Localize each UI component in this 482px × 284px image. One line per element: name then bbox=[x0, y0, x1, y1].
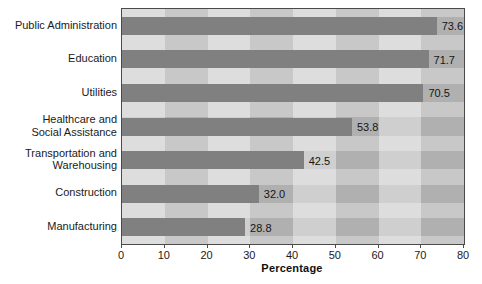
category-label: Construction bbox=[0, 186, 117, 199]
bar-value-label: 32.0 bbox=[264, 189, 285, 200]
bar-value-label: 42.5 bbox=[309, 156, 330, 167]
x-tick-label: 50 bbox=[320, 249, 350, 262]
row-gap-band bbox=[122, 143, 464, 151]
x-tick-mark bbox=[378, 244, 379, 248]
bar-value-label: 73.6 bbox=[442, 21, 463, 32]
row-gap-band bbox=[122, 169, 464, 177]
bar bbox=[122, 151, 304, 169]
x-tick-mark bbox=[463, 244, 464, 248]
bar bbox=[122, 17, 437, 35]
x-tick-label: 60 bbox=[363, 249, 393, 262]
row-gap-band bbox=[122, 35, 464, 43]
category-label: Healthcare and Social Assistance bbox=[0, 113, 117, 138]
row-gap-band bbox=[122, 68, 464, 76]
bar bbox=[122, 118, 352, 136]
x-tick-mark bbox=[164, 244, 165, 248]
row-gap-band bbox=[122, 110, 464, 118]
x-tick-mark bbox=[335, 244, 336, 248]
x-tick-mark bbox=[207, 244, 208, 248]
row-gap-band bbox=[122, 43, 464, 51]
category-label: Manufacturing bbox=[0, 220, 117, 233]
x-axis-title: Percentage bbox=[121, 262, 463, 274]
bar-value-label: 28.8 bbox=[250, 223, 271, 234]
x-tick-label: 40 bbox=[277, 249, 307, 262]
bar bbox=[122, 84, 423, 102]
category-label: Transportation and Warehousing bbox=[0, 147, 117, 172]
x-tick-label: 10 bbox=[149, 249, 179, 262]
bar bbox=[122, 50, 429, 68]
row-gap-band bbox=[122, 210, 464, 218]
plot-area: 73.671.770.553.842.532.028.8 bbox=[121, 8, 465, 245]
bar-value-label: 70.5 bbox=[428, 88, 449, 99]
x-tick-mark bbox=[292, 244, 293, 248]
x-tick-mark bbox=[420, 244, 421, 248]
x-tick-label: 20 bbox=[192, 249, 222, 262]
horizontal-bar-chart: 73.671.770.553.842.532.028.8 Public Admi… bbox=[0, 0, 482, 284]
row-gap-band bbox=[122, 236, 464, 244]
x-tick-label: 0 bbox=[106, 249, 136, 262]
x-tick-mark bbox=[121, 244, 122, 248]
category-label: Utilities bbox=[0, 86, 117, 99]
row-gap-band bbox=[122, 136, 464, 144]
row-gap-band bbox=[122, 203, 464, 211]
x-tick-label: 70 bbox=[405, 249, 435, 262]
row-gap-band bbox=[122, 177, 464, 185]
x-tick-mark bbox=[249, 244, 250, 248]
row-gap-band bbox=[122, 9, 464, 17]
x-tick-label: 30 bbox=[234, 249, 264, 262]
row-gap-band bbox=[122, 76, 464, 84]
bar bbox=[122, 185, 259, 203]
bar bbox=[122, 218, 245, 236]
x-tick-label: 80 bbox=[448, 249, 478, 262]
category-label: Public Administration bbox=[0, 19, 117, 32]
bar-value-label: 71.7 bbox=[434, 55, 455, 66]
row-gap-band bbox=[122, 102, 464, 110]
category-label: Education bbox=[0, 52, 117, 65]
bar-value-label: 53.8 bbox=[357, 122, 378, 133]
